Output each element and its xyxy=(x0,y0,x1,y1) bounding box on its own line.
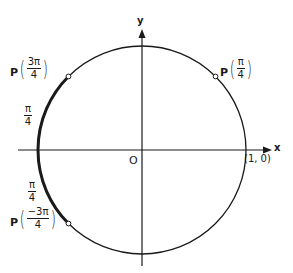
arc-label-upper: π4 xyxy=(24,104,32,127)
fraction-denominator: 4 xyxy=(237,69,243,80)
right-paren: ) xyxy=(246,58,251,80)
fraction-denominator: 4 xyxy=(29,192,35,203)
point-label-pi-4: P(π4) xyxy=(220,57,253,80)
fraction-numerator: π xyxy=(24,104,32,116)
y-axis-arrow-icon xyxy=(139,29,146,38)
unit-circle-diagram xyxy=(0,0,293,273)
origin-label: O xyxy=(129,155,138,166)
fraction-denominator: 4 xyxy=(25,116,31,127)
point-neg3pi-4-marker xyxy=(66,221,71,226)
point-label-3pi-4: P(3π4) xyxy=(10,57,50,80)
y-axis-label: y xyxy=(137,16,144,26)
point-prefix: P xyxy=(220,66,228,79)
right-paren: ) xyxy=(51,208,56,230)
arc-label-lower: π4 xyxy=(28,180,36,203)
left-paren: ( xyxy=(20,58,25,80)
fraction-numerator: π xyxy=(237,57,245,69)
point-label-neg3pi-4: P(−3π4) xyxy=(10,207,58,230)
intercept-label: (1, 0) xyxy=(244,154,271,164)
right-paren: ) xyxy=(43,58,48,80)
fraction-denominator: 4 xyxy=(35,219,41,230)
fraction-denominator: 4 xyxy=(31,69,37,80)
fraction-numerator: −3π xyxy=(27,207,50,219)
point-pi-4-marker xyxy=(213,74,218,79)
point-3pi-4-marker xyxy=(66,74,71,79)
fraction-numerator: π xyxy=(28,180,36,192)
left-paren: ( xyxy=(230,58,235,80)
left-paren: ( xyxy=(20,208,25,230)
point-prefix: P xyxy=(10,216,18,229)
point-prefix: P xyxy=(10,66,18,79)
fraction-numerator: 3π xyxy=(27,57,41,69)
x-axis-label: x xyxy=(274,143,280,153)
